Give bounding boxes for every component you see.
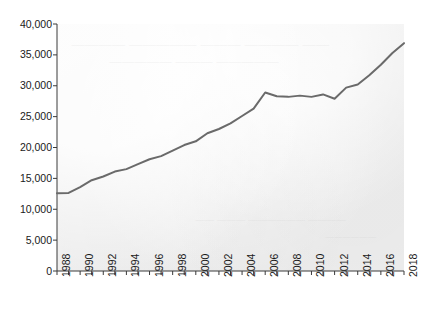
x-tick-label: 2008 bbox=[292, 254, 303, 277]
x-tick-label: 2012 bbox=[339, 254, 350, 277]
line-chart-figure: —— ———— ——— ————— ———— ————— ——— ————— —… bbox=[0, 0, 422, 322]
x-tick-label: 2016 bbox=[385, 254, 396, 277]
x-tick-label: 2006 bbox=[269, 254, 280, 277]
x-tick-label: 2018 bbox=[408, 254, 419, 277]
x-tick-label: 2004 bbox=[246, 254, 257, 277]
x-tick-label: 1988 bbox=[61, 254, 72, 277]
x-tick-label: 2010 bbox=[315, 254, 326, 277]
x-tick-label: 2000 bbox=[200, 254, 211, 277]
x-tick-label: 1992 bbox=[107, 254, 118, 277]
x-tick-label: 2014 bbox=[362, 254, 373, 277]
x-tick-label: 2002 bbox=[223, 254, 234, 277]
x-tick-label: 1990 bbox=[84, 254, 95, 277]
x-tick-label: 1996 bbox=[154, 254, 165, 277]
x-axis-tick-labels: 1988199019921994199619982000200220042006… bbox=[0, 0, 422, 322]
x-tick-label: 1994 bbox=[130, 254, 141, 277]
x-tick-label: 1998 bbox=[177, 254, 188, 277]
